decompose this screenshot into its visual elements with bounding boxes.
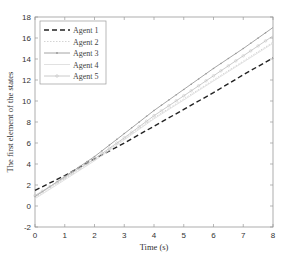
x-tick-label: 6 [211, 231, 216, 240]
legend-label: Agent 2 [73, 38, 99, 47]
y-tick-label: 12 [22, 76, 31, 85]
y-tick-label: 10 [22, 97, 31, 106]
x-tick-label: 2 [92, 231, 97, 240]
x-tick-label: 5 [182, 231, 187, 240]
y-tick-label: 8 [27, 118, 32, 127]
y-tick-label: 2 [27, 181, 32, 190]
legend: Agent 1Agent 2Agent 3Agent 4Agent 5 [40, 21, 106, 84]
legend-label: Agent 1 [73, 26, 99, 35]
legend-label: Agent 3 [73, 49, 99, 58]
y-tick-label: 4 [27, 160, 32, 169]
x-tick-label: 0 [33, 231, 38, 240]
y-axis-title: The first element of the states [5, 72, 15, 173]
y-tick-label: 14 [22, 55, 31, 64]
x-axis-title: Time (s) [140, 242, 169, 252]
x-tick-label: 1 [63, 231, 68, 240]
x-tick-label: 8 [271, 231, 276, 240]
y-tick-label: 16 [22, 34, 31, 43]
y-tick-label: 6 [27, 139, 32, 148]
legend-label: Agent 4 [73, 61, 99, 70]
x-tick-label: 4 [152, 231, 157, 240]
line-chart: 012345678-2024681012141618 Time (s) The … [0, 0, 291, 262]
x-tick-label: 7 [241, 231, 246, 240]
y-tick-label: 0 [27, 202, 32, 211]
x-tick-label: 3 [122, 231, 127, 240]
y-tick-label: -2 [24, 223, 32, 232]
y-tick-label: 18 [22, 13, 31, 22]
legend-label: Agent 5 [73, 72, 99, 81]
